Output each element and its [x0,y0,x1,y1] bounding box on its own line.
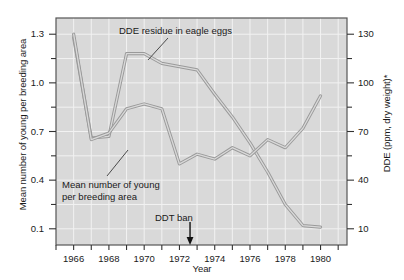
annotation-mean-young-line1: Mean number of young [62,179,160,191]
chart-canvas [0,0,404,280]
chart-figure: 1.31.00.70.40.1 130100704010 19661968197… [0,0,404,280]
x-axis-title: Year [0,263,404,274]
y-right-tick-label: 10 [358,223,388,234]
y-left-tick-label: 0.1 [18,223,44,234]
annotation-ddt-ban: DDT ban [155,212,193,224]
annotation-mean-young-line2: per breeding area [62,191,160,203]
annotation-mean-young: Mean number of young per breeding area [62,179,160,203]
annotation-dde-residue: DDE residue in eagle eggs [119,25,232,37]
y-axis-left-title: Mean number of young per breeding area [17,30,28,220]
y-axis-right-title: DDE (ppm, dry weight)* [381,39,392,209]
